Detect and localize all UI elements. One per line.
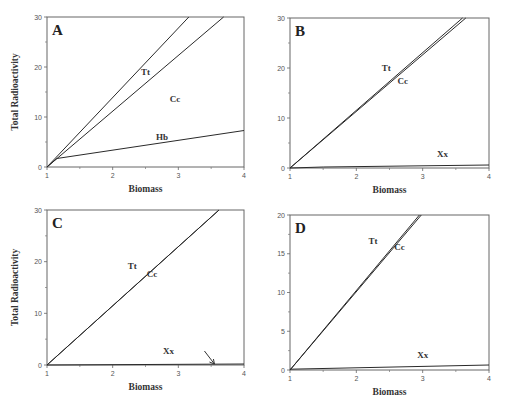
x-tick-label: 1 xyxy=(288,173,292,180)
x-axis-label: Biomass xyxy=(129,184,163,194)
panel-letter: D xyxy=(295,220,306,236)
x-tick-label: 2 xyxy=(111,370,115,377)
series-label: Cc xyxy=(170,94,181,104)
series-line-tt xyxy=(47,17,224,167)
x-tick-label: 3 xyxy=(421,375,425,382)
y-tick-label: 0 xyxy=(38,164,42,171)
y-tick-label: 10 xyxy=(34,114,42,121)
plot-frame xyxy=(47,210,244,365)
x-tick-label: 1 xyxy=(45,370,49,377)
y-tick-label: 0 xyxy=(38,362,42,369)
panel-c: 12340102030TtCcXxCBiomassTotal Radioacti… xyxy=(10,207,246,393)
x-tick-label: 2 xyxy=(111,172,115,179)
y-tick-label: 10 xyxy=(277,115,285,122)
series-label: Xx xyxy=(437,149,448,159)
y-tick-label: 10 xyxy=(277,289,285,296)
x-tick-label: 3 xyxy=(421,173,425,180)
y-tick-label: 20 xyxy=(277,65,285,72)
y-tick-label: 30 xyxy=(34,14,42,21)
y-axis-label: Total Radioactivity xyxy=(10,249,20,327)
x-axis-label: Biomass xyxy=(373,185,407,195)
series-line-cc xyxy=(47,210,219,365)
figure: 12340102030TtCcHbABiomassTotal Radioacti… xyxy=(0,0,505,411)
panel-letter: A xyxy=(52,22,63,38)
y-tick-label: 20 xyxy=(277,212,285,219)
x-tick-label: 4 xyxy=(242,172,246,179)
y-tick-label: 20 xyxy=(34,258,42,265)
series-label: Cc xyxy=(398,76,409,86)
x-tick-label: 1 xyxy=(288,375,292,382)
panel-d: 123405101520TtCcXxDBiomass xyxy=(277,212,491,398)
y-tick-label: 15 xyxy=(277,250,285,257)
series-label: Tt xyxy=(382,63,391,73)
series-label: Tt xyxy=(141,67,150,77)
x-axis-label: Biomass xyxy=(129,382,163,392)
x-tick-label: 4 xyxy=(487,173,491,180)
y-tick-label: 0 xyxy=(281,165,285,172)
series-line-cc xyxy=(290,18,466,168)
panel-a: 12340102030TtCcHbABiomassTotal Radioacti… xyxy=(10,14,246,195)
series-label: Cc xyxy=(394,242,405,252)
y-tick-label: 5 xyxy=(281,328,285,335)
series-line-cc xyxy=(290,215,421,370)
y-tick-label: 30 xyxy=(34,207,42,214)
x-tick-label: 3 xyxy=(176,370,180,377)
series-label: Xx xyxy=(163,346,174,356)
y-axis-label: Total Radioactivity xyxy=(10,53,20,131)
plot-frame xyxy=(290,215,489,370)
plot-frame xyxy=(290,18,489,168)
y-tick-label: 30 xyxy=(277,15,285,22)
x-tick-label: 3 xyxy=(176,172,180,179)
x-tick-label: 4 xyxy=(487,375,491,382)
plot-frame xyxy=(47,17,244,167)
series-label: Hb xyxy=(156,132,168,142)
series-label: Tt xyxy=(128,261,137,271)
x-tick-label: 4 xyxy=(242,370,246,377)
x-axis-label: Biomass xyxy=(373,387,407,397)
series-label: Cc xyxy=(147,269,158,279)
x-tick-label: 2 xyxy=(354,173,358,180)
series-label: Tt xyxy=(368,236,377,246)
series-line-upperunlabeled xyxy=(47,17,189,167)
y-tick-label: 10 xyxy=(34,310,42,317)
panel-letter: C xyxy=(52,215,63,231)
x-tick-label: 1 xyxy=(45,172,49,179)
panel-letter: B xyxy=(295,23,305,39)
panel-b: 12340102030TtCcXxBBiomass xyxy=(277,15,491,196)
series-label: Xx xyxy=(417,350,428,360)
x-tick-label: 2 xyxy=(354,375,358,382)
series-line-xx xyxy=(290,365,489,369)
y-tick-label: 0 xyxy=(281,367,285,374)
y-tick-label: 20 xyxy=(34,64,42,71)
